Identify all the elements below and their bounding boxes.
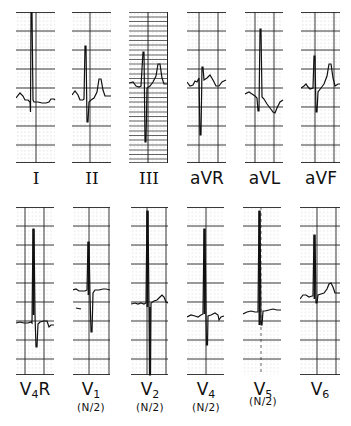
ecg-panel-lead-V2 (131, 207, 170, 377)
lead-subscript: 1 (93, 388, 100, 401)
ecg-panel-lead-aVR (187, 12, 227, 164)
ecg-panel-lead-V6 (300, 207, 341, 377)
ecg-panel-lead-V4R (16, 207, 55, 377)
lead-name: aVR (190, 168, 224, 188)
lead-name: V (141, 379, 153, 399)
lead-label-V4R: V4R (12, 381, 58, 398)
lead-subscript: 6 (322, 388, 329, 401)
ecg-panel-lead-V5 (243, 207, 283, 377)
ecg-trace-lead-V5 (243, 207, 283, 377)
lead-name: I (33, 168, 40, 188)
ecg-trace-lead-III (129, 12, 169, 164)
lead-name: II (85, 168, 98, 188)
ecg-panel-lead-aVL (245, 12, 284, 164)
lead-label-III: III (129, 170, 169, 187)
lead-name: aVL (249, 168, 281, 188)
lead-subscript: 2 (152, 388, 159, 401)
lead-note-V2: (N/2) (129, 402, 171, 413)
lead-name: aVF (305, 168, 337, 188)
lead-note-V4: (N/2) (185, 402, 227, 413)
lead-name: V (20, 379, 32, 399)
ecg-trace-lead-V4 (187, 207, 226, 377)
ecg-panel-lead-V4 (187, 207, 226, 377)
lead-label-V4: V4 (185, 381, 227, 398)
ecg-panel-lead-V1 (73, 207, 112, 377)
lead-label-I: I (16, 170, 56, 187)
lead-note-V1: (N/2) (70, 402, 112, 413)
lead-label-V1: V1 (70, 381, 112, 398)
lead-label-V6: V6 (299, 381, 341, 398)
lead-label-II: II (72, 170, 112, 187)
ecg-panel-lead-aVF (301, 12, 341, 164)
ecg-panel-lead-I (16, 12, 56, 164)
ecg-trace-lead-aVR (187, 12, 227, 164)
lead-note-V5: (N/2) (242, 396, 284, 407)
lead-label-aVF: aVF (301, 170, 341, 187)
lead-suffix: R (38, 379, 50, 399)
ecg-trace-lead-aVL (245, 12, 284, 164)
lead-label-V2: V2 (129, 381, 171, 398)
lead-subscript: 4 (208, 388, 215, 401)
lead-name: III (139, 168, 159, 188)
lead-name: V (82, 379, 94, 399)
ecg-trace-lead-II (72, 12, 112, 164)
ecg-panel-lead-II (72, 12, 112, 164)
ecg-panel-lead-III (129, 12, 169, 164)
ecg-trace-lead-V1 (73, 207, 112, 377)
lead-label-aVR: aVR (187, 170, 227, 187)
ecg-trace-lead-V6 (300, 207, 341, 377)
ecg-trace-lead-V2 (131, 207, 170, 377)
lead-name: V (197, 379, 209, 399)
lead-label-aVL: aVL (245, 170, 284, 187)
lead-name: V (311, 379, 323, 399)
ecg-trace-lead-aVF (301, 12, 341, 164)
ecg-trace-lead-V4R (16, 207, 55, 377)
ecg-trace-lead-I (16, 12, 56, 164)
